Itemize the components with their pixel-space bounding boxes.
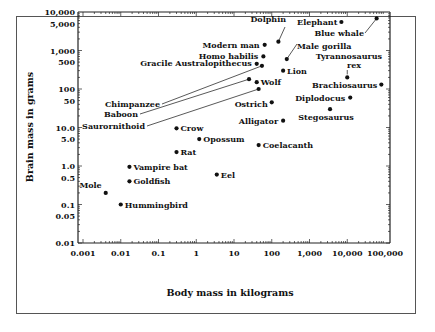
point-label: Stegosaurus bbox=[298, 112, 354, 122]
y-tick-label: 10,000 bbox=[44, 7, 75, 17]
x-tick-label: 0.001 bbox=[70, 248, 95, 258]
scatter-chart: 0.0010.010.11101001,00010,000100,00010,0… bbox=[0, 0, 435, 332]
point-label: Brachiosaurus bbox=[312, 80, 378, 90]
y-tick-label: 500 bbox=[58, 57, 75, 67]
data-point bbox=[379, 83, 383, 87]
y-tick-label: 0.5 bbox=[61, 173, 75, 183]
data-point bbox=[127, 179, 131, 183]
leader-line bbox=[278, 27, 285, 42]
data-point bbox=[215, 172, 219, 176]
point-label: Dolphin bbox=[250, 14, 286, 24]
data-point bbox=[197, 137, 201, 141]
x-tick-label: 1 bbox=[193, 248, 199, 258]
y-tick-label: 1.0 bbox=[61, 161, 75, 171]
data-point bbox=[339, 20, 343, 24]
point-label: Vampire bat bbox=[132, 162, 188, 172]
point-label: Eel bbox=[221, 170, 235, 180]
x-tick-label: 100,000 bbox=[367, 248, 404, 258]
point-label: Modern man bbox=[203, 40, 260, 50]
x-axis-label: Body mass in kilograms bbox=[166, 287, 293, 298]
data-point bbox=[255, 80, 259, 84]
point-label: Elephant bbox=[297, 17, 338, 27]
y-tick-label: 0.05 bbox=[56, 211, 75, 221]
y-tick-label: 5,000 bbox=[50, 19, 75, 29]
data-point bbox=[174, 126, 178, 130]
y-tick-label: 0.01 bbox=[56, 238, 75, 248]
y-axis-label: Brain mass in grams bbox=[24, 72, 35, 182]
y-tick-label: 50 bbox=[64, 96, 76, 106]
point-label: Lion bbox=[287, 66, 307, 76]
leader-line bbox=[162, 66, 262, 104]
data-point bbox=[270, 100, 274, 104]
data-point bbox=[104, 191, 108, 195]
data-point bbox=[328, 107, 332, 111]
point-label: Homo habilis bbox=[199, 51, 259, 61]
point-label: Goldfish bbox=[133, 176, 170, 186]
leader-line bbox=[287, 44, 297, 59]
point-label: Ostrich bbox=[235, 99, 268, 109]
point-label: Blue whale bbox=[314, 28, 364, 38]
point-label: rex bbox=[347, 60, 361, 70]
y-tick-label: 5.0 bbox=[61, 134, 75, 144]
x-tick-label: 1,000 bbox=[297, 248, 322, 258]
point-label: Rat bbox=[181, 147, 197, 157]
data-point bbox=[281, 119, 285, 123]
x-tick-label: 10,000 bbox=[332, 248, 363, 258]
y-tick-label: 10.0 bbox=[56, 123, 76, 133]
y-tick-label: 0.1 bbox=[61, 200, 75, 210]
point-label: Coelacanth bbox=[263, 140, 314, 150]
data-point bbox=[281, 69, 285, 73]
point-label: Baboon bbox=[104, 109, 138, 119]
data-point bbox=[348, 95, 352, 99]
data-point bbox=[174, 150, 178, 154]
data-point bbox=[127, 165, 131, 169]
x-tick-label: 100 bbox=[263, 248, 280, 258]
point-label: Hummingbird bbox=[125, 200, 189, 210]
point-label: Wolf bbox=[260, 77, 282, 87]
x-tick-label: 0.01 bbox=[111, 248, 130, 258]
x-tick-label: 0.1 bbox=[152, 248, 166, 258]
data-point bbox=[261, 54, 265, 58]
point-labels: MoleHummingbirdGoldfishVampire batRatCro… bbox=[79, 14, 382, 210]
point-label: Mole bbox=[79, 180, 101, 190]
point-label: Crow bbox=[181, 123, 205, 133]
y-tick-label: 100 bbox=[58, 84, 75, 94]
y-tick-label: 1,000 bbox=[50, 46, 75, 56]
data-point bbox=[263, 43, 267, 47]
leader-line bbox=[365, 18, 377, 33]
point-label: Alligator bbox=[238, 116, 279, 126]
point-label: Opossum bbox=[203, 134, 245, 144]
x-tick-label: 10 bbox=[228, 248, 240, 258]
point-label: Chimpanzee bbox=[105, 99, 160, 109]
data-point bbox=[257, 143, 261, 147]
data-point bbox=[119, 202, 123, 206]
point-label: Male gorilla bbox=[297, 41, 351, 51]
data-point bbox=[255, 62, 259, 66]
point-label: Diplodocus bbox=[295, 93, 346, 103]
point-label: Saurornithoid bbox=[82, 121, 145, 131]
